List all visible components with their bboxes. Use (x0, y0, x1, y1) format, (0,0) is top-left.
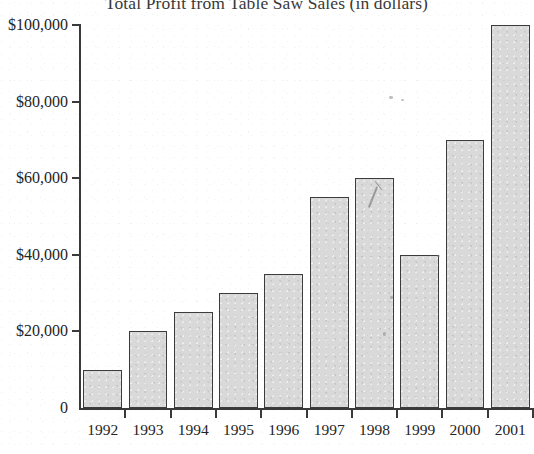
chart-title: Total Profit from Table Saw Sales (in do… (0, 0, 533, 14)
x-axis-tick-label: 1995 (216, 422, 261, 438)
x-axis-tick (170, 408, 172, 418)
scan-speck (389, 96, 393, 99)
x-axis-tick (215, 408, 217, 418)
y-axis-tick-label: $100,000 (0, 17, 68, 33)
y-axis-tick (72, 101, 81, 103)
y-axis-tick-label: $80,000 (0, 94, 68, 110)
x-axis-tick-label: 2000 (442, 422, 487, 438)
y-axis-line (79, 24, 81, 410)
x-axis-tick-label: 1997 (307, 422, 352, 438)
scan-speck (383, 332, 386, 336)
y-axis-tick-label: 0 (0, 400, 68, 416)
y-axis-tick (72, 254, 81, 256)
x-axis-tick-label: 1992 (80, 422, 125, 438)
bar (491, 25, 530, 408)
y-axis-tick-label: $20,000 (0, 323, 68, 339)
bar (446, 140, 485, 408)
bar (355, 178, 394, 408)
bar (83, 370, 122, 408)
x-axis-tick (441, 408, 443, 418)
bar (264, 274, 303, 408)
scan-speck (437, 255, 440, 257)
bar (174, 312, 213, 408)
y-axis-tick-label: $60,000 (0, 170, 68, 186)
x-axis-tick (396, 408, 398, 418)
x-axis-tick-label: 1996 (261, 422, 306, 438)
y-axis-tick (72, 330, 81, 332)
y-axis-tick (72, 24, 81, 26)
y-axis-tick-label: $40,000 (0, 247, 68, 263)
bar (310, 197, 349, 408)
x-axis-tick-label: 2001 (488, 422, 533, 438)
x-axis-tick (351, 408, 353, 418)
x-axis-tick (306, 408, 308, 418)
x-axis-tick (124, 408, 126, 418)
x-axis-tick-label: 1994 (171, 422, 216, 438)
y-axis-tick (72, 177, 81, 179)
scan-speck (390, 296, 393, 299)
scan-speck (401, 99, 404, 101)
x-axis-tick-label: 1998 (352, 422, 397, 438)
x-axis-tick (487, 408, 489, 418)
x-axis-tick-label: 1993 (125, 422, 170, 438)
x-axis-tick-label: 1999 (397, 422, 442, 438)
bar (129, 331, 168, 408)
bar (219, 293, 258, 408)
bar (400, 255, 439, 408)
x-axis-tick (260, 408, 262, 418)
